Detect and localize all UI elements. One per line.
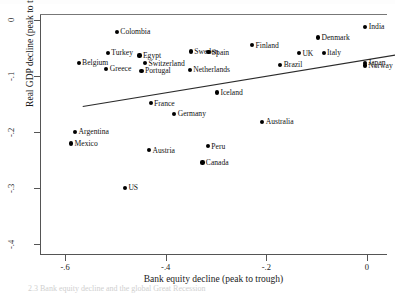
data-point-label: Australia: [266, 118, 294, 126]
figure-caption: 2.3 Bank equity decline and the global G…: [28, 284, 206, 293]
data-point-label: Italy: [327, 49, 341, 57]
y-tick-label: -.3: [6, 176, 30, 200]
x-tick-label: -.2: [251, 262, 281, 272]
data-point-label: Colombia: [120, 28, 150, 36]
y-tick-mark: [34, 188, 40, 189]
plot-top-rule: [40, 14, 387, 15]
data-point-label: Canada: [206, 159, 229, 167]
data-point-label: Finland: [256, 42, 279, 50]
data-point-marker: [188, 68, 192, 72]
data-point-label: Turkey: [111, 49, 133, 57]
x-tick-label: -.4: [151, 262, 181, 272]
data-point-marker: [363, 63, 367, 67]
data-point-label: Peru: [211, 143, 225, 151]
data-point-marker: [149, 101, 153, 105]
data-point-marker: [316, 35, 320, 39]
y-tick-mark: [34, 244, 40, 245]
data-point-label: Germany: [178, 110, 206, 118]
data-point-label: Argentina: [79, 128, 109, 136]
data-point-marker: [106, 51, 110, 55]
x-tick-mark: [367, 255, 368, 261]
x-tick-mark: [266, 255, 267, 261]
data-point-label: France: [154, 100, 175, 108]
data-point-marker: [200, 160, 204, 164]
data-point-marker: [115, 30, 119, 34]
x-tick-label: -.6: [50, 262, 80, 272]
data-point-label: India: [369, 23, 385, 31]
x-tick-mark: [166, 255, 167, 261]
data-point-label: Belgium: [82, 59, 108, 67]
data-point-label: Austria: [153, 147, 175, 155]
data-point-marker: [215, 90, 219, 94]
data-point-label: US: [128, 184, 138, 192]
data-point-marker: [77, 61, 81, 65]
data-point-label: Iceland: [220, 89, 242, 97]
y-tick-mark: [34, 132, 40, 133]
data-point-label: Denmark: [322, 34, 350, 42]
data-point-label: Norway: [368, 62, 392, 70]
data-point-marker: [189, 49, 193, 53]
data-point-label: Greece: [110, 65, 132, 73]
data-point-label: UK: [302, 50, 313, 58]
y-axis-title: Real GDP decline (peak to trough): [25, 0, 35, 126]
data-point-label: Spain: [212, 49, 229, 57]
data-point-marker: [206, 50, 210, 54]
data-point-marker: [322, 51, 326, 55]
x-tick-mark: [65, 255, 66, 261]
data-point-label: Portugal: [145, 67, 171, 75]
data-point-marker: [137, 53, 141, 57]
data-point-marker: [69, 141, 73, 145]
data-point-label: Brazil: [284, 61, 303, 69]
data-point-marker: [139, 69, 143, 73]
data-point-marker: [73, 130, 77, 134]
data-point-label: Netherlands: [193, 66, 230, 74]
top-margin: [0, 0, 395, 4]
figure-scatter-plot: 0-.1-.2-.3-.4 -.6-.4-.20 Bank equity dec…: [0, 0, 395, 295]
data-point-label: Mexico: [75, 140, 98, 148]
data-point-marker: [123, 186, 127, 190]
y-tick-label: -.4: [6, 232, 30, 256]
x-axis-title: Bank equity decline (peak to trough): [40, 274, 387, 284]
x-tick-label: 0: [352, 262, 382, 272]
